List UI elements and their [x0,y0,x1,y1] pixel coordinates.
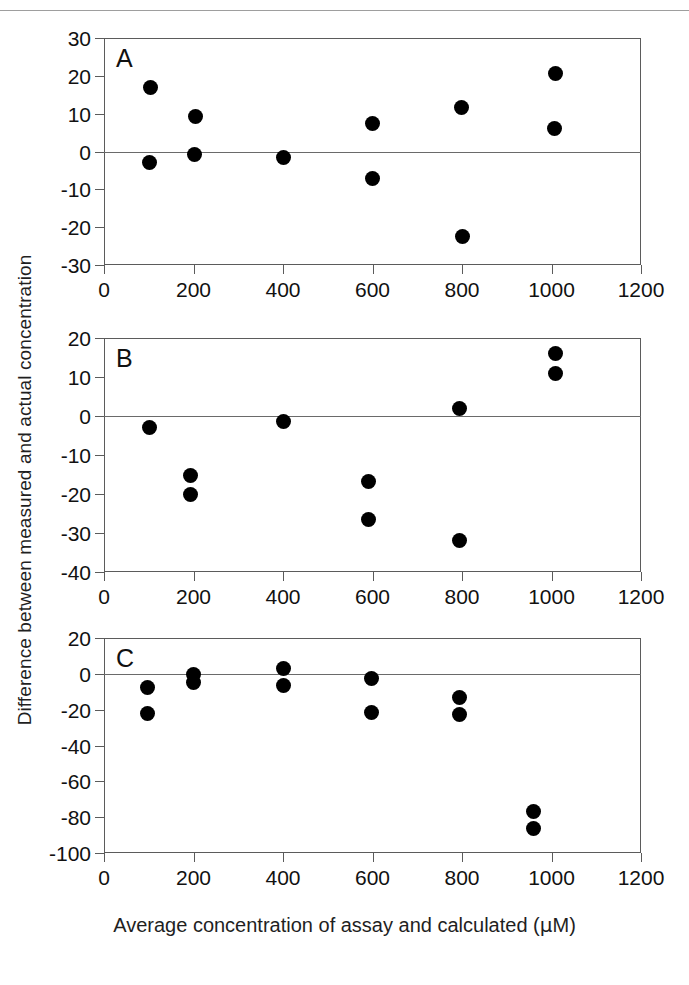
x-tick [194,572,195,581]
y-tick [95,746,104,747]
x-tick-label: 1200 [618,586,665,607]
data-point [455,229,470,244]
y-tick-label: 10 [68,367,91,388]
panel-c: C200-20-40-60-80-10002004006008001000120… [104,638,641,853]
y-tick-label: 20 [68,628,91,649]
y-tick [95,152,104,153]
x-tick-label: 0 [98,586,110,607]
y-tick-label: 10 [68,103,91,124]
x-tick-label: 600 [355,586,390,607]
x-tick-label: 800 [444,279,479,300]
x-tick [641,265,642,274]
x-tick [283,572,284,581]
y-tick [95,674,104,675]
y-tick-label: -100 [49,843,91,864]
y-tick-label: -30 [61,255,91,276]
y-tick [95,853,104,854]
data-point [187,147,202,162]
y-tick [95,189,104,190]
y-tick-label: -40 [61,562,91,583]
data-point [364,705,379,720]
x-tick-label: 800 [444,586,479,607]
y-tick [95,38,104,39]
x-tick-label: 400 [265,279,300,300]
y-tick [95,227,104,228]
x-tick [283,853,284,862]
x-tick-label: 1200 [618,279,665,300]
y-tick [95,710,104,711]
data-point [183,468,198,483]
y-tick-label: -20 [61,699,91,720]
x-tick [373,853,374,862]
figure-three-panel-difference-plots: Difference between measured and actual c… [0,0,689,985]
data-point [276,150,291,165]
data-point [276,678,291,693]
zero-reference-line [104,152,641,153]
x-tick [462,265,463,274]
x-tick-label: 200 [176,867,211,888]
y-tick [95,338,104,339]
y-tick-label: -10 [61,179,91,200]
x-tick [462,853,463,862]
y-tick-label: -60 [61,771,91,792]
y-tick [95,817,104,818]
x-tick-label: 200 [176,586,211,607]
x-axis-title: Average concentration of assay and calcu… [0,913,689,937]
x-tick [283,265,284,274]
x-tick-label: 400 [265,867,300,888]
x-tick-label: 1000 [528,586,575,607]
y-tick-label: -20 [61,484,91,505]
x-tick-label: 600 [355,867,390,888]
data-point [276,661,291,676]
y-tick-label: 20 [68,328,91,349]
x-tick-label: 800 [444,867,479,888]
panel-b: B20100-10-20-30-40020040060080010001200 [104,338,641,572]
y-tick-label: 0 [79,141,91,162]
x-tick [194,265,195,274]
x-tick-label: 1000 [528,279,575,300]
y-tick-label: -20 [61,217,91,238]
y-tick [95,455,104,456]
data-point [365,171,380,186]
y-tick [95,377,104,378]
y-tick-label: 0 [79,663,91,684]
x-tick [104,572,105,581]
y-tick [95,416,104,417]
data-point [365,116,380,131]
x-tick [373,265,374,274]
x-tick [641,853,642,862]
y-tick [95,114,104,115]
y-tick [95,76,104,77]
x-tick [552,853,553,862]
zero-reference-line [104,416,641,417]
panel-letter-b: B [116,346,133,371]
x-tick [552,572,553,581]
x-tick-label: 200 [176,279,211,300]
x-tick [104,853,105,862]
panel-letter-c: C [116,646,134,671]
x-tick-label: 600 [355,279,390,300]
data-point [548,346,563,361]
x-tick-label: 0 [98,867,110,888]
x-tick-label: 0 [98,279,110,300]
panel-a: A3020100-10-20-30020040060080010001200 [104,38,641,265]
panel-letter-a: A [116,46,133,71]
x-tick [104,265,105,274]
y-tick [95,533,104,534]
data-point [454,100,469,115]
x-tick-label: 1000 [528,867,575,888]
data-point [548,366,563,381]
y-tick [95,572,104,573]
y-tick [95,781,104,782]
y-tick [95,494,104,495]
y-tick-label: 0 [79,406,91,427]
y-tick [95,265,104,266]
y-axis-title: Difference between measured and actual c… [14,120,44,860]
x-tick [373,572,374,581]
x-tick [641,572,642,581]
y-tick-label: -80 [61,807,91,828]
y-tick [95,638,104,639]
data-point [548,66,563,81]
x-tick [552,265,553,274]
data-point [276,414,291,429]
